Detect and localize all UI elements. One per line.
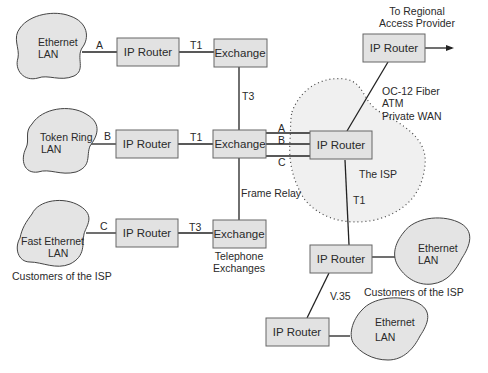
router-regional: IP Router	[363, 34, 425, 62]
router-c: IP Router	[116, 219, 178, 247]
link-label-b: B	[278, 134, 285, 146]
regional-provider-label: Access Provider	[379, 17, 455, 29]
link-label-t1: T1	[190, 131, 202, 143]
link-label-a: A	[278, 122, 285, 134]
link-label-a: A	[96, 39, 103, 51]
cloud-label: LAN	[48, 247, 68, 259]
customers-label-right: Customers of the ISP	[364, 286, 464, 298]
oc12-label: Private WAN	[382, 110, 442, 122]
router-label: IP Router	[124, 46, 173, 58]
customers-label-left: Customers of the ISP	[12, 270, 112, 282]
oc12-label: OC-12 Fiber	[382, 85, 440, 97]
router-isp: IP Router	[310, 131, 372, 159]
exchange-top: Exchange	[214, 39, 267, 67]
link-label-b: B	[104, 130, 111, 142]
cloud-label: Ethernet	[375, 316, 415, 328]
isp-label: The ISP	[359, 168, 397, 180]
exchange-label: Exchange	[213, 228, 264, 240]
router-label: IP Router	[273, 326, 322, 338]
link-label-t3: T3	[242, 90, 254, 102]
isp-network-diagram: Ethernet LAN Token Ring LAN Fast Etherne…	[0, 0, 488, 373]
link-label-c: C	[278, 156, 286, 168]
exchange-bottom: Exchange	[213, 220, 266, 248]
cloud-label: Ethernet	[38, 36, 78, 48]
cloud-ethernet-lan-d: Ethernet LAN	[395, 218, 470, 284]
cloud-label: LAN	[375, 331, 395, 343]
cloud-token-ring-lan: Token Ring LAN	[23, 109, 97, 174]
telephone-exchanges-label: Exchanges	[213, 262, 265, 274]
cloud-label: Ethernet	[418, 242, 458, 254]
cloud-label: LAN	[38, 48, 58, 60]
router-label: IP Router	[370, 42, 419, 54]
telephone-exchanges-label: Telephone	[215, 250, 264, 262]
cloud-label: LAN	[41, 143, 61, 155]
cloud-fast-ethernet-lan: Fast Ethernet LAN	[17, 200, 89, 266]
regional-provider-label: To Regional	[389, 5, 444, 17]
exchange-label: Exchange	[214, 47, 265, 59]
router-e: IP Router	[266, 318, 329, 346]
cloud-ethernet-lan-e: Ethernet LAN	[351, 298, 428, 360]
link-label-v35: V.35	[330, 290, 351, 302]
router-b: IP Router	[116, 130, 178, 158]
oc12-label: ATM	[382, 97, 403, 109]
link-label-t3: T3	[189, 221, 201, 233]
cloud-ethernet-lan-a: Ethernet LAN	[16, 13, 86, 78]
exchange-label: Exchange	[214, 138, 265, 150]
exchange-middle: Exchange	[213, 130, 266, 158]
cloud-label: Fast Ethernet	[21, 235, 84, 247]
router-d: IP Router	[310, 245, 372, 273]
cloud-label: LAN	[418, 254, 438, 266]
cloud-label: Token Ring	[40, 131, 93, 143]
link-label-t1: T1	[190, 39, 202, 51]
link-label-t1: T1	[353, 194, 365, 206]
router-label: IP Router	[123, 138, 172, 150]
router-a: IP Router	[117, 38, 179, 66]
router-label: IP Router	[317, 139, 366, 151]
link-label-frame-relay: Frame Relay	[241, 187, 302, 199]
link-label-c: C	[100, 220, 108, 232]
router-label: IP Router	[123, 227, 172, 239]
router-label: IP Router	[317, 253, 366, 265]
